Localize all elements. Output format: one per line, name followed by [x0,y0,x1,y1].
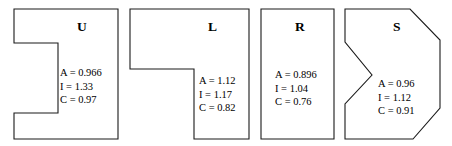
metric-compactness-r: C = 0.76 [275,95,317,109]
metric-area-u: A = 0.966 [60,66,102,80]
metric-inertia-r: I = 1.04 [275,82,317,96]
metric-area-l: A = 1.12 [199,74,236,88]
shape-label-s: S [393,20,401,34]
shape-metrics-s: A = 0.96 I = 1.12 C = 0.91 [378,77,415,118]
metric-compactness-l: C = 0.82 [199,101,236,115]
shape-metrics-l: A = 1.12 I = 1.17 C = 0.82 [199,74,236,115]
metric-inertia-s: I = 1.12 [378,91,415,105]
shape-label-r: R [295,20,305,34]
metric-compactness-u: C = 0.97 [60,93,102,107]
metric-inertia-u: I = 1.33 [60,80,102,94]
metric-compactness-s: C = 0.91 [378,104,415,118]
metric-area-s: A = 0.96 [378,77,415,91]
metric-area-r: A = 0.896 [275,68,317,82]
shape-metrics-u: A = 0.966 I = 1.33 C = 0.97 [60,66,102,107]
shape-metrics-figure: U A = 0.966 I = 1.33 C = 0.97 L A = 1.12… [0,0,452,146]
metric-inertia-l: I = 1.17 [199,88,236,102]
shape-label-l: L [208,20,217,34]
shape-metrics-r: A = 0.896 I = 1.04 C = 0.76 [275,68,317,109]
shape-label-u: U [77,20,87,34]
